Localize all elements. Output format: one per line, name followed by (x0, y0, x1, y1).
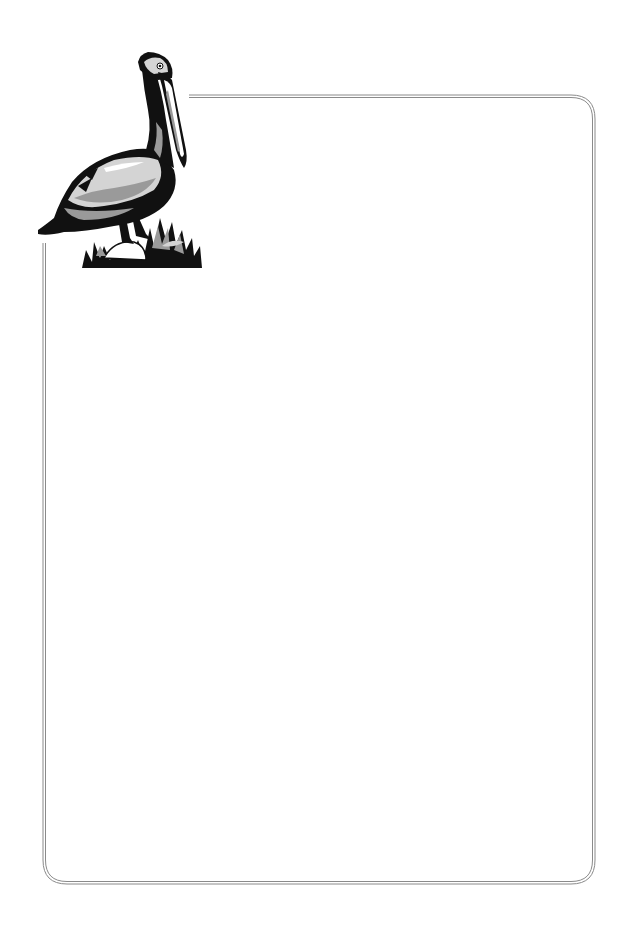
pelican-icon (34, 50, 209, 272)
stationery-page (0, 0, 625, 930)
